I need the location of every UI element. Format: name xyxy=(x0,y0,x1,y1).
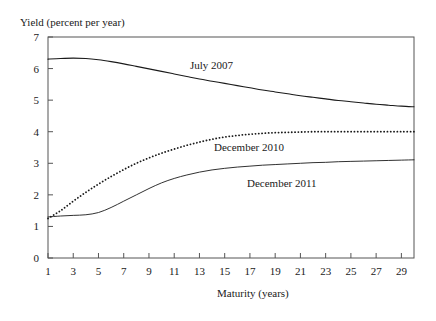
x-tick-label: 25 xyxy=(345,265,357,277)
y-tick-label: 0 xyxy=(34,252,40,264)
x-tick-label: 3 xyxy=(70,265,76,277)
y-tick-label: 1 xyxy=(34,220,40,232)
y-tick-label: 2 xyxy=(34,189,40,201)
x-tick-label: 23 xyxy=(320,265,332,277)
series-line-0 xyxy=(48,58,414,107)
yield-curve-plot: 01234567 1357911131517192123252729 xyxy=(0,0,436,321)
y-tick-label: 3 xyxy=(34,157,40,169)
x-tick-label: 5 xyxy=(96,265,102,277)
x-tick-label: 13 xyxy=(194,265,206,277)
x-tick-label: 15 xyxy=(219,265,231,277)
x-tick-label: 19 xyxy=(270,265,282,277)
chart-page: Yield (percent per year) Maturity (years… xyxy=(0,0,436,321)
x-tick-label: 21 xyxy=(295,265,306,277)
x-tick-label: 17 xyxy=(244,265,256,277)
series-line-1 xyxy=(48,132,414,219)
x-tick-label: 1 xyxy=(45,265,51,277)
series-line-2 xyxy=(48,160,414,217)
series-paths xyxy=(48,58,414,218)
y-tick-label: 6 xyxy=(34,63,40,75)
x-tick-label: 9 xyxy=(146,265,152,277)
plot-frame xyxy=(48,37,414,258)
y-tick-label: 4 xyxy=(34,126,40,138)
x-axis-ticks: 1357911131517192123252729 xyxy=(45,253,407,277)
x-tick-label: 27 xyxy=(371,265,383,277)
x-tick-label: 29 xyxy=(396,265,408,277)
y-tick-label: 7 xyxy=(34,31,40,43)
x-tick-label: 7 xyxy=(121,265,127,277)
y-axis-ticks: 01234567 xyxy=(34,31,54,264)
x-tick-label: 11 xyxy=(169,265,180,277)
y-tick-label: 5 xyxy=(34,94,40,106)
